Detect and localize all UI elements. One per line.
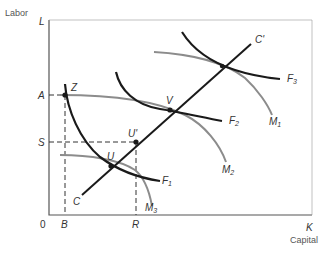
x-axis-title: Capital <box>290 235 318 245</box>
label-k: K <box>306 222 314 233</box>
label-origin: 0 <box>40 219 46 230</box>
y-axis-title: Labor <box>5 8 28 18</box>
label-m2: M2 <box>222 164 234 176</box>
label-c: C <box>73 196 81 207</box>
label-f3: F3 <box>287 73 297 85</box>
label-b: B <box>61 219 68 230</box>
label-v: V <box>166 95 174 106</box>
point-u <box>108 163 113 168</box>
label-m3: M3 <box>145 202 157 214</box>
point-u-prime <box>133 139 138 144</box>
point-z <box>62 92 67 97</box>
label-m1: M1 <box>269 116 281 128</box>
point-v <box>167 107 172 112</box>
label-u-prime: U' <box>128 128 138 139</box>
label-s: S <box>38 137 45 148</box>
label-z: Z <box>70 82 78 93</box>
label-l: L <box>39 16 45 27</box>
label-f2: F2 <box>229 115 239 127</box>
label-r: R <box>132 219 139 230</box>
label-f1: F1 <box>162 175 172 187</box>
label-a: A <box>37 90 45 101</box>
isoquant-f3 <box>182 32 280 79</box>
label-c-prime: C' <box>255 34 265 45</box>
label-u: U <box>107 151 115 162</box>
point-top <box>220 64 224 68</box>
edgeworth-box-diagram: Labor Capital L K 0 A S B R Z U' U V C C… <box>0 0 324 253</box>
